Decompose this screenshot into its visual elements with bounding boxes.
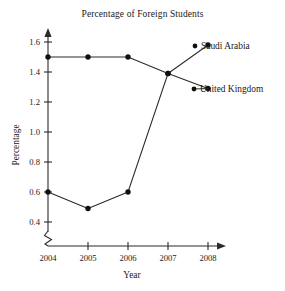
series-saudi-arabia: Saudi Arabia bbox=[45, 41, 250, 211]
y-axis-title: Percentage bbox=[11, 124, 21, 165]
series-label-united-kingdom: United Kingdom bbox=[200, 84, 264, 94]
x-tick-label-2005: 2005 bbox=[79, 253, 96, 263]
data-point-marker bbox=[125, 189, 130, 194]
y-tick-label-0-6: 0.6 bbox=[29, 187, 40, 197]
y-tick-label-1-6: 1.6 bbox=[29, 37, 40, 47]
x-axis-tick-labels: 2004 2005 2006 2007 2008 bbox=[39, 253, 216, 263]
y-tick-label-0-8: 0.8 bbox=[29, 157, 40, 167]
series-label-saudi-arabia: Saudi Arabia bbox=[201, 41, 251, 51]
data-point-marker bbox=[45, 54, 50, 59]
data-point-marker bbox=[85, 54, 90, 59]
x-tick-label-2006: 2006 bbox=[119, 253, 137, 263]
y-tick-label-1-4: 1.4 bbox=[29, 67, 40, 77]
data-point-marker bbox=[45, 189, 50, 194]
y-tick-label-1-2: 1.2 bbox=[29, 97, 40, 107]
line-chart-plot: 1.6 1.4 1.2 1.0 0.8 0.6 0.4 2004 2005 20… bbox=[0, 0, 285, 291]
axis-break-icon bbox=[45, 231, 52, 246]
x-axis-title: Year bbox=[123, 270, 141, 280]
chart-container: Percentage of Foreign Students 1.6 bbox=[0, 0, 285, 291]
x-tick-label-2008: 2008 bbox=[199, 253, 216, 263]
y-axis-arrow-icon bbox=[44, 28, 51, 37]
series-label-marker-uk bbox=[192, 87, 197, 92]
x-tick-label-2007: 2007 bbox=[159, 253, 177, 263]
x-axis bbox=[48, 242, 226, 249]
series-label-marker-saudi bbox=[193, 44, 198, 49]
data-point-marker bbox=[165, 71, 170, 76]
y-tick-label-0-4: 0.4 bbox=[29, 217, 40, 227]
y-axis-tick-labels: 1.6 1.4 1.2 1.0 0.8 0.6 0.4 bbox=[29, 37, 40, 227]
series-united-kingdom: United Kingdom bbox=[45, 54, 264, 94]
data-point-marker bbox=[125, 54, 130, 59]
x-axis-arrow-icon bbox=[217, 242, 226, 249]
x-tick-label-2004: 2004 bbox=[39, 253, 57, 263]
y-tick-label-1-0: 1.0 bbox=[29, 127, 40, 137]
data-point-marker bbox=[85, 206, 90, 211]
